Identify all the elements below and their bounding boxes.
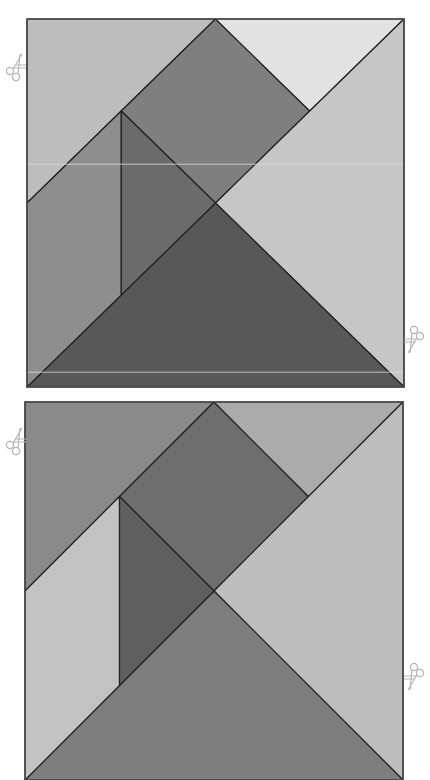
- scissors-icon-top-left-1: [4, 52, 26, 82]
- scissors-icon-bottom-right-1: [404, 325, 426, 355]
- tangram-square-2: [25, 402, 403, 780]
- tangram-square-1: [27, 19, 404, 387]
- scissors-icon-top-left-2: [4, 426, 26, 456]
- scissors-icon-bottom-right-2: [404, 662, 426, 692]
